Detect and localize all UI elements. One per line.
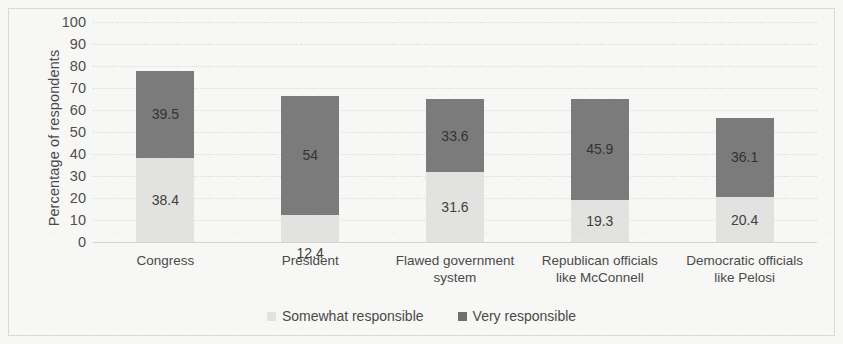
stacked-bar[interactable]: 5412.4 — [281, 96, 339, 242]
bar-segment-very-responsible[interactable]: 39.5 — [136, 71, 194, 158]
x-axis-label: Flawed governmentsystem — [387, 252, 523, 286]
y-axis-tick-20: 20 — [46, 190, 86, 206]
x-axis-category-labels: CongressPresidentFlawed governmentsystem… — [93, 252, 817, 298]
x-axis-label: President — [242, 252, 378, 269]
bar-segment-very-responsible[interactable]: 45.9 — [571, 99, 629, 200]
bar-value-label: 31.6 — [441, 200, 468, 214]
x-axis-label-line: Democratic officials — [677, 252, 813, 269]
x-axis-label-line: President — [242, 252, 378, 269]
legend-swatch-icon — [267, 312, 276, 321]
chart-legend: Somewhat responsibleVery responsible — [0, 308, 843, 324]
stacked-bar[interactable]: 45.919.3 — [571, 99, 629, 242]
x-axis-label-line: system — [387, 269, 523, 286]
bar-segment-somewhat-responsible[interactable]: 12.4 — [281, 215, 339, 242]
bar-segment-very-responsible[interactable]: 33.6 — [426, 99, 484, 173]
stacked-bar[interactable]: 39.538.4 — [136, 71, 194, 242]
legend-item[interactable]: Very responsible — [458, 308, 577, 324]
y-axis-tick-80: 80 — [46, 58, 86, 74]
y-axis-tick-40: 40 — [46, 146, 86, 162]
x-axis-label: Republican officialslike McConnell — [532, 252, 668, 286]
bar-segment-somewhat-responsible[interactable]: 19.3 — [571, 200, 629, 242]
bar-value-label: 39.5 — [152, 107, 179, 121]
bar-value-label: 54 — [302, 148, 318, 162]
x-axis-label-line: Republican officials — [532, 252, 668, 269]
stacked-bar[interactable]: 33.631.6 — [426, 99, 484, 242]
bar-group[interactable]: 36.120.4 — [672, 22, 817, 242]
bar-value-label: 45.9 — [586, 142, 613, 156]
chart-container: Percentage of respondents 10090807060504… — [0, 0, 843, 344]
bar-segment-somewhat-responsible[interactable]: 38.4 — [136, 158, 194, 242]
bar-segment-very-responsible[interactable]: 54 — [281, 96, 339, 215]
y-axis-tick-0: 0 — [46, 234, 86, 250]
bar-value-label: 36.1 — [731, 150, 758, 164]
bar-value-label: 20.4 — [731, 213, 758, 227]
bar-segment-very-responsible[interactable]: 36.1 — [716, 118, 774, 197]
bar-segment-somewhat-responsible[interactable]: 20.4 — [716, 197, 774, 242]
x-axis-label: Democratic officialslike Pelosi — [677, 252, 813, 286]
y-axis-tick-30: 30 — [46, 168, 86, 184]
bar-value-label: 38.4 — [152, 193, 179, 207]
x-axis-label: Congress — [97, 252, 233, 269]
bar-value-label: 33.6 — [441, 129, 468, 143]
legend-item[interactable]: Somewhat responsible — [267, 308, 424, 324]
x-axis-line — [93, 242, 817, 243]
y-axis-tick-100: 100 — [46, 14, 86, 30]
bar-group[interactable]: 33.631.6 — [383, 22, 528, 242]
y-axis-tick-90: 90 — [46, 36, 86, 52]
x-axis-label-line: like Pelosi — [677, 269, 813, 286]
x-axis-label-line: Flawed government — [387, 252, 523, 269]
x-axis-label-line: like McConnell — [532, 269, 668, 286]
legend-label: Very responsible — [473, 308, 577, 324]
plot-area: 39.538.45412.433.631.645.919.336.120.4 — [93, 22, 817, 242]
y-axis-tick-70: 70 — [46, 80, 86, 96]
y-axis-tick-60: 60 — [46, 102, 86, 118]
y-axis-tick-50: 50 — [46, 124, 86, 140]
y-axis-tick-labels: 1009080706050403020100 — [40, 22, 86, 242]
bar-group[interactable]: 45.919.3 — [527, 22, 672, 242]
bar-value-label: 19.3 — [586, 214, 613, 228]
bar-group[interactable]: 5412.4 — [238, 22, 383, 242]
bar-group[interactable]: 39.538.4 — [93, 22, 238, 242]
legend-label: Somewhat responsible — [282, 308, 424, 324]
bar-segment-somewhat-responsible[interactable]: 31.6 — [426, 172, 484, 242]
stacked-bar[interactable]: 36.120.4 — [716, 118, 774, 242]
x-axis-label-line: Congress — [97, 252, 233, 269]
legend-swatch-icon — [458, 312, 467, 321]
y-axis-tick-10: 10 — [46, 212, 86, 228]
